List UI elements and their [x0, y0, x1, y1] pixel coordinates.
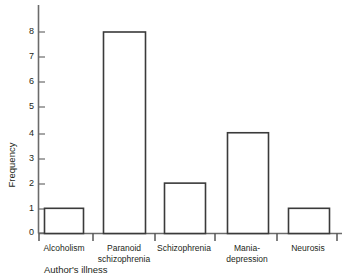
bar-chart: 8 7 6 5 4 3 2 1 0 Alcoholism Paranoid sc…: [0, 0, 349, 280]
y-tick-label-7: 7: [22, 52, 34, 61]
y-tick-label-5: 5: [22, 102, 34, 111]
bar-neurosis: [289, 208, 330, 233]
y-tick-label-8: 8: [22, 27, 34, 36]
chart-plot-area: [0, 0, 349, 280]
y-tick-label-3: 3: [22, 154, 34, 163]
y-tick-label-4: 4: [22, 129, 34, 138]
x-category-label-paranoid-schizophrenia: Paranoid schizophrenia: [92, 243, 156, 264]
x-category-label-schizophrenia: Schizophrenia: [152, 243, 216, 254]
x-category-label-alcoholism: Alcoholism: [40, 243, 88, 254]
y-axis-ticks: [39, 32, 46, 233]
x-axis-title: Author's illness: [44, 264, 108, 275]
y-tick-label-1: 1: [22, 204, 34, 213]
x-category-label-neurosis: Neurosis: [282, 243, 334, 254]
bar-alcoholism: [45, 208, 84, 233]
y-tick-label-6: 6: [22, 77, 34, 86]
y-tick-label-2: 2: [22, 179, 34, 188]
y-tick-label-0: 0: [22, 228, 34, 237]
y-axis-title: Frequency: [7, 130, 17, 200]
bar-mania-depression: [228, 133, 269, 234]
bar-series: [45, 32, 330, 234]
bar-paranoid-schizophrenia: [104, 32, 146, 234]
x-axis-ticks: [39, 234, 337, 242]
bar-schizophrenia: [165, 183, 206, 233]
x-category-label-mania-depression: Mania- depression: [216, 243, 278, 264]
